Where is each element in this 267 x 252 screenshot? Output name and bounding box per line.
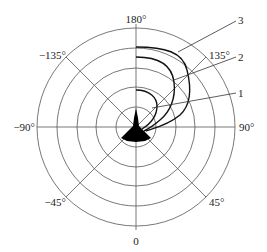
- curve-label-2: 2: [238, 51, 244, 63]
- label-180: 180°: [126, 13, 147, 25]
- label-minus-90: −90°: [13, 121, 35, 133]
- label-minus-135: −135°: [39, 49, 66, 61]
- curve-label-3: 3: [238, 14, 244, 26]
- leader-3: [178, 21, 236, 52]
- leader-1: [152, 93, 236, 108]
- label-135: 135°: [209, 49, 230, 61]
- label-45: 45°: [209, 196, 224, 208]
- curve-labels: 3 2 1: [238, 14, 244, 99]
- label-0: 0: [133, 235, 139, 247]
- label-90: 90°: [239, 121, 254, 133]
- label-minus-45: −45°: [44, 196, 66, 208]
- spoke-diag-upper-left: [66, 57, 136, 127]
- polar-diagram: 180° 135° 90° 45° 0 −45° −90° −135° 3 2 …: [0, 0, 267, 252]
- curve-label-1: 1: [238, 87, 244, 99]
